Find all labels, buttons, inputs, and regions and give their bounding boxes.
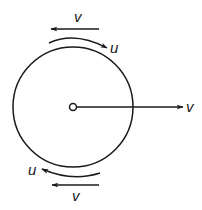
wheel-center-hub [70,104,77,111]
top-rotation-label: u [110,40,118,55]
wheel-diagram [0,0,202,210]
bottom-rotation-arc-arrow [42,169,100,177]
bottom-translation-label: v [72,188,80,203]
center-velocity-label: v [186,99,194,114]
top-translation-label: v [74,9,82,24]
bottom-rotation-label: u [28,162,36,177]
